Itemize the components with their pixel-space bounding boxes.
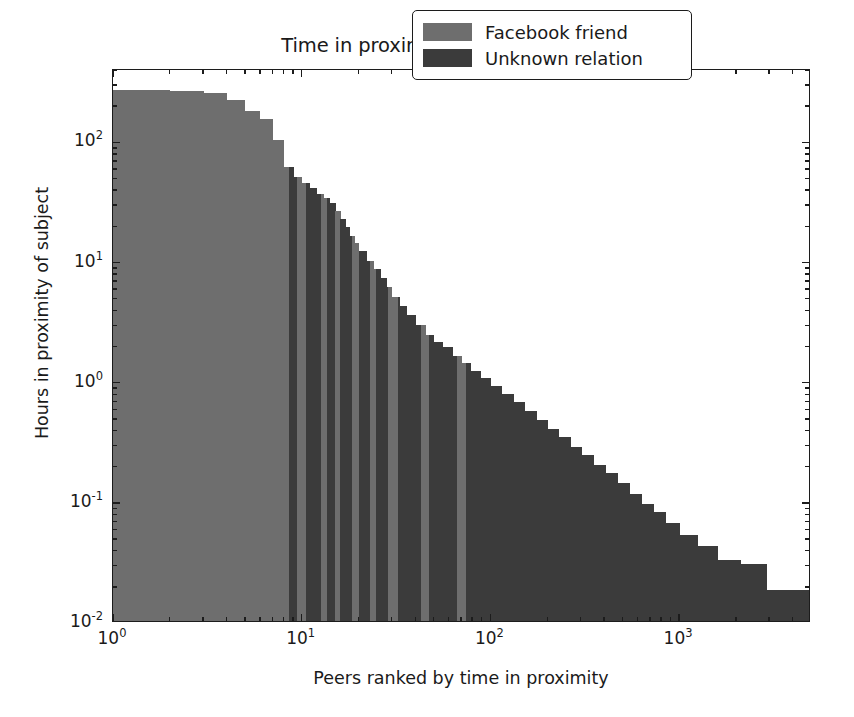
axis-tick-mark <box>805 153 809 154</box>
axis-tick-mark <box>113 147 117 148</box>
y-tick-exponent: 0 <box>96 369 103 383</box>
axis-tick-mark <box>792 617 793 621</box>
axis-tick-mark <box>433 617 434 621</box>
axis-tick-mark <box>805 418 809 419</box>
x-tick-label: 103 <box>648 628 708 647</box>
legend-item-unknown[interactable]: Unknown relation <box>423 45 681 71</box>
axis-tick-mark <box>358 70 359 74</box>
y-tick-exponent: 2 <box>96 128 103 142</box>
x-tick-mantissa: 10 <box>664 628 686 648</box>
plot-area <box>112 69 810 622</box>
axis-tick-mark <box>113 387 117 388</box>
axis-tick-mark <box>113 538 117 539</box>
axis-tick-mark <box>768 70 769 74</box>
axis-tick-mark <box>244 70 245 74</box>
axis-tick-mark <box>112 70 114 77</box>
axis-tick-mark <box>805 409 809 410</box>
y-tick-mantissa: 10 <box>70 490 92 510</box>
x-tick-mantissa: 10 <box>286 628 308 648</box>
axis-tick-mark <box>415 617 416 621</box>
axis-tick-mark <box>113 346 117 347</box>
legend-box: Facebook friendUnknown relation <box>412 10 692 80</box>
axis-tick-mark <box>670 617 671 621</box>
axis-tick-mark <box>391 70 392 74</box>
axis-tick-mark <box>113 189 117 190</box>
axis-tick-mark <box>259 70 260 74</box>
axis-tick-mark <box>660 617 661 621</box>
axis-tick-mark <box>113 204 117 205</box>
legend-label: Facebook friend <box>485 22 628 43</box>
axis-tick-mark <box>805 445 809 446</box>
axis-tick-mark <box>244 617 245 621</box>
axis-tick-mark <box>301 70 303 77</box>
axis-tick-mark <box>283 70 284 74</box>
y-tick-label: 102 <box>74 130 103 149</box>
axis-tick-mark <box>805 168 809 169</box>
axis-tick-mark <box>768 617 769 621</box>
axis-tick-mark <box>113 409 117 410</box>
figure-canvas: Time in proximity to subject by peers 10… <box>0 0 854 717</box>
y-tick-label: 10-1 <box>70 491 103 510</box>
axis-tick-mark <box>169 70 170 74</box>
axis-tick-mark <box>805 529 809 530</box>
axis-tick-mark <box>113 394 117 395</box>
x-tick-exponent: 3 <box>685 626 692 640</box>
axis-tick-mark <box>113 310 117 311</box>
axis-tick-mark <box>805 189 809 190</box>
x-tick-label: 102 <box>459 628 519 647</box>
axis-tick-mark <box>802 502 809 504</box>
axis-tick-mark <box>802 142 809 144</box>
y-axis-label: Hours in proximity of subject <box>32 43 52 583</box>
axis-tick-mark <box>202 617 203 621</box>
axis-tick-mark <box>113 466 117 467</box>
axis-tick-mark <box>805 226 809 227</box>
axis-tick-mark <box>113 325 117 326</box>
axis-tick-mark <box>805 273 809 274</box>
axis-tick-mark <box>805 565 809 566</box>
axis-tick-mark <box>802 262 809 264</box>
axis-tick-mark <box>805 310 809 311</box>
axis-tick-mark <box>113 168 117 169</box>
axis-tick-mark <box>113 298 117 299</box>
chart-bar <box>809 590 810 621</box>
axis-tick-mark <box>226 70 227 74</box>
axis-tick-mark <box>113 502 120 504</box>
axis-tick-mark <box>637 617 638 621</box>
axis-tick-mark <box>735 70 736 74</box>
legend-item-facebook[interactable]: Facebook friend <box>423 19 681 45</box>
axis-tick-mark <box>805 586 809 587</box>
axis-tick-mark <box>805 84 809 85</box>
axis-tick-mark <box>113 382 120 384</box>
axis-tick-mark <box>113 153 117 154</box>
axis-tick-mark <box>649 617 650 621</box>
axis-tick-mark <box>113 160 117 161</box>
y-tick-exponent: -2 <box>92 609 103 623</box>
axis-tick-mark <box>113 280 117 281</box>
axis-tick-mark <box>292 70 293 74</box>
x-tick-label: 100 <box>82 628 142 647</box>
axis-tick-mark <box>678 614 680 621</box>
axis-tick-mark <box>792 70 793 74</box>
axis-tick-mark <box>113 226 117 227</box>
axis-tick-mark <box>805 466 809 467</box>
axis-tick-mark <box>259 617 260 621</box>
axis-tick-mark <box>805 288 809 289</box>
axis-tick-mark <box>292 617 293 621</box>
axis-tick-mark <box>113 521 117 522</box>
axis-tick-mark <box>735 617 736 621</box>
axis-tick-mark <box>622 617 623 621</box>
axis-tick-mark <box>802 382 809 384</box>
axis-tick-mark <box>113 262 120 264</box>
x-tick-exponent: 2 <box>497 626 504 640</box>
y-tick-exponent: 1 <box>96 249 103 263</box>
axis-tick-mark <box>805 514 809 515</box>
axis-tick-mark <box>805 147 809 148</box>
axis-tick-mark <box>272 70 273 74</box>
axis-tick-mark <box>113 401 117 402</box>
y-tick-label: 101 <box>74 251 103 270</box>
axis-tick-mark <box>805 267 809 268</box>
x-tick-mantissa: 10 <box>98 628 120 648</box>
axis-tick-mark <box>805 550 809 551</box>
axis-tick-mark <box>603 617 604 621</box>
x-tick-exponent: 0 <box>119 626 126 640</box>
